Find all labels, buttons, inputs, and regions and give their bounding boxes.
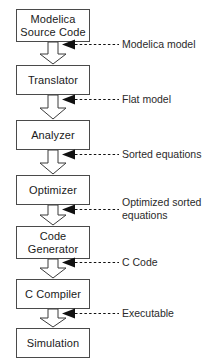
stage-label-modelica-source-code: Modelica Source Code <box>20 13 85 39</box>
annotation-label-optimized-sorted-equations: Optimized sorted equations <box>122 196 201 221</box>
dashed-arrow-executable <box>62 308 120 319</box>
annotation-label-sorted-equations: Sorted equations <box>122 148 201 161</box>
stage-label-analyzer: Analyzer <box>31 129 75 142</box>
stage-box-simulation: Simulation <box>16 328 90 358</box>
stage-label-code-generator: Code Generator <box>28 230 78 256</box>
stage-box-analyzer: Analyzer <box>16 120 90 150</box>
stage-label-translator: Translator <box>28 74 78 87</box>
annotation-label-modelica-model: Modelica model <box>122 38 196 51</box>
modelica-flowchart: Modelica Source Code Translator Analyzer… <box>0 0 215 363</box>
dashed-arrow-flat-model <box>62 94 120 105</box>
dashed-arrow-modelica-model <box>62 39 120 50</box>
stage-label-optimizer: Optimizer <box>29 184 77 197</box>
annotation-label-executable: Executable <box>122 307 174 320</box>
stage-label-c-compiler: C Compiler <box>25 288 81 301</box>
stage-box-c-compiler: C Compiler <box>16 279 90 309</box>
annotation-label-flat-model: Flat model <box>122 93 171 106</box>
dashed-arrow-optimized-sorted-equations <box>62 204 120 215</box>
stage-label-simulation: Simulation <box>27 337 79 350</box>
stage-box-modelica-source-code: Modelica Source Code <box>16 9 90 42</box>
annotation-label-c-code: C Code <box>122 256 158 269</box>
stage-box-optimizer: Optimizer <box>16 175 90 205</box>
stage-box-translator: Translator <box>16 65 90 95</box>
dashed-arrow-sorted-equations <box>62 149 120 160</box>
stage-box-code-generator: Code Generator <box>16 226 90 259</box>
dashed-arrow-c-code <box>62 257 120 268</box>
